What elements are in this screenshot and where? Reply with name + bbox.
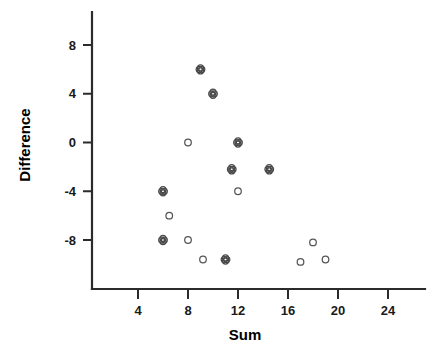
data-point-single	[200, 256, 207, 263]
data-point-double	[265, 165, 274, 174]
data-point-double	[159, 235, 168, 244]
y-axis-tick-label: 4	[69, 86, 77, 101]
data-point-double	[159, 187, 168, 196]
data-point-double	[221, 255, 230, 264]
chart-canvas: 840-4-84812162024 Difference Sum	[0, 0, 438, 361]
y-axis-title: Difference	[16, 108, 33, 181]
x-axis-tick-label: 8	[184, 303, 191, 318]
data-point-single	[166, 212, 173, 219]
data-point-single	[185, 237, 192, 244]
scatter-plot-figure: 840-4-84812162024 Difference Sum	[0, 0, 438, 361]
data-point-single	[322, 256, 329, 263]
data-point-single	[310, 239, 317, 246]
axis-layer	[92, 12, 425, 289]
x-axis-tick-label: 16	[281, 303, 295, 318]
tick-label-layer: 840-4-84812162024	[64, 38, 396, 319]
data-point-single	[185, 139, 192, 146]
data-point-single	[297, 259, 304, 266]
data-point-double	[209, 89, 218, 98]
data-point-single	[235, 188, 242, 195]
y-axis-tick-label: 8	[69, 38, 76, 53]
data-point-double	[196, 65, 205, 74]
data-point-double	[227, 165, 236, 174]
data-point-double	[234, 138, 243, 147]
x-axis-tick-label: 20	[331, 303, 345, 318]
y-axis-tick-label: -8	[64, 233, 76, 248]
x-axis-tick-label: 24	[381, 303, 396, 318]
tick-layer	[83, 45, 388, 299]
y-axis-tick-label: -4	[64, 184, 76, 199]
y-axis-tick-label: 0	[69, 135, 76, 150]
x-axis-tick-label: 4	[134, 303, 142, 318]
x-axis-tick-label: 12	[231, 303, 245, 318]
x-axis-title: Sum	[229, 326, 262, 343]
data-points-layer	[159, 65, 329, 265]
